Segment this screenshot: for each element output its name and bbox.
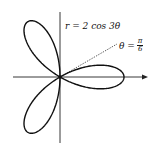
origin-point — [58, 75, 61, 78]
fraction: π 6 — [137, 38, 144, 53]
equation-label: r = 2 cos 3θ — [65, 21, 120, 31]
x-axis-arrowhead — [142, 75, 148, 80]
theta-ray-label: θ = π 6 — [119, 38, 143, 53]
fraction-denominator: 6 — [138, 46, 142, 53]
theta-ray-label-lhs: θ = — [119, 41, 135, 51]
